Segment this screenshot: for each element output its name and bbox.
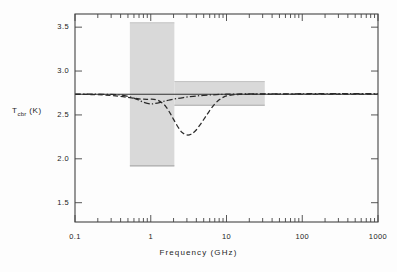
- y-tick-label-2-5: 2.5: [57, 110, 69, 119]
- axis-frame-layer: [75, 14, 378, 222]
- y-axis-title-subscript: cbr: [18, 111, 27, 117]
- y-tick-label-3-0: 3.0: [57, 66, 69, 75]
- x-tick-label-0-1: 0.1: [45, 232, 105, 241]
- plot-frame: [75, 14, 378, 222]
- axis-ticks-layer: [75, 14, 378, 222]
- y-axis-title: Tcbr (K): [12, 106, 42, 117]
- x-tick-label-10: 10: [197, 232, 257, 241]
- figure-container: 1.52.02.53.03.5 0.11101001000 Tcbr (K) F…: [0, 0, 397, 272]
- x-tick-label-1000: 1000: [348, 232, 397, 241]
- y-tick-label-1-5: 1.5: [57, 198, 69, 207]
- x-tick-label-100: 100: [272, 232, 332, 241]
- x-tick-label-1: 1: [121, 232, 181, 241]
- x-axis-title: Frequency (GHz): [0, 248, 397, 257]
- y-axis-title-unit: (K): [29, 106, 41, 115]
- y-tick-label-2-0: 2.0: [57, 154, 69, 163]
- y-tick-label-3-5: 3.5: [57, 22, 69, 31]
